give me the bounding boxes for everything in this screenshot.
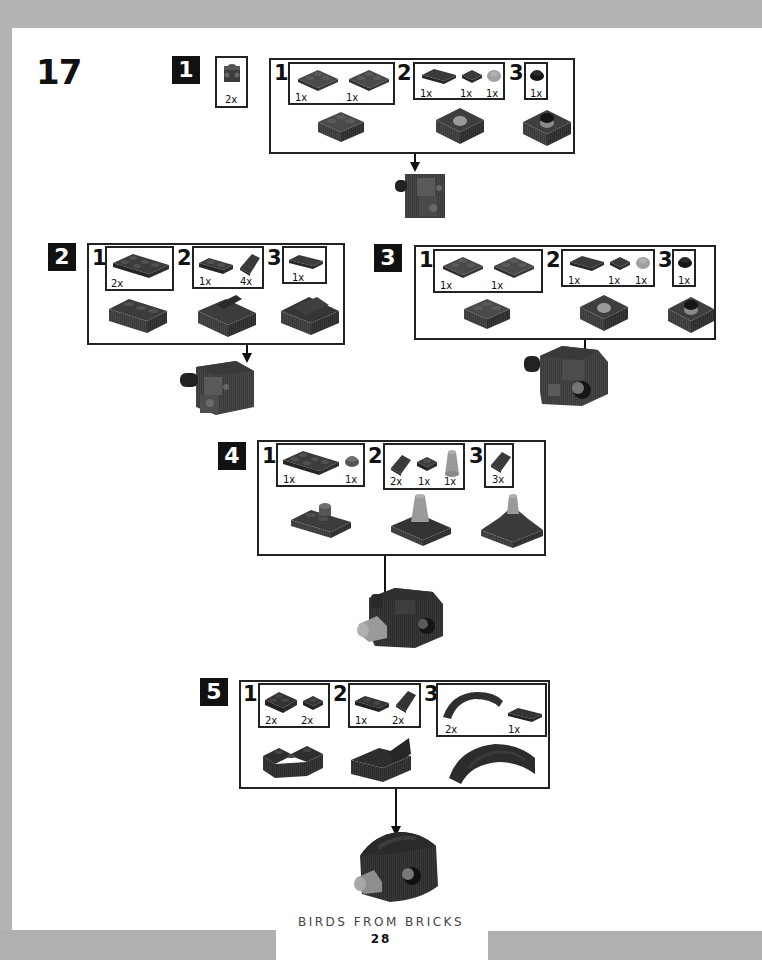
quantity-label: 1x	[345, 474, 357, 485]
substep-3-parts: 2x 1x	[436, 683, 547, 737]
slope-1x1-icon	[388, 452, 414, 476]
substep-number: 2	[368, 446, 383, 467]
step-4-badge: 4	[218, 442, 246, 470]
substep-2-parts: 1x 4x	[192, 246, 264, 289]
tile-1x2-icon	[287, 252, 325, 270]
slope-1x1-icon	[392, 687, 418, 713]
substep-1-parts: 2x 2x	[258, 683, 330, 728]
substep-number: 3	[267, 248, 282, 269]
brick-side-studs-icon	[222, 62, 242, 84]
substep-number: 1	[243, 684, 258, 705]
substep-3-parts: 1x	[672, 249, 696, 287]
substep-number: 3	[469, 446, 484, 467]
quantity-label: 1x	[283, 474, 295, 485]
substep-3-parts: 3x	[484, 443, 514, 488]
substep-1-result-icon	[462, 297, 512, 331]
plate-2x2-icon	[295, 67, 341, 91]
substep-3-parts: 1x	[282, 246, 327, 284]
tile-1x2-icon	[506, 705, 544, 723]
tile-1x1-icon	[608, 255, 632, 271]
step-2-frame: 1 2x 2 1x 4x 3 1x	[87, 243, 345, 345]
substep-1-result-icon	[316, 110, 366, 144]
slope-1x1-icon	[236, 250, 262, 276]
book-title: BIRDS FROM BRICKS	[0, 915, 762, 929]
plate-1x1-icon	[301, 693, 325, 711]
quantity-label: 1x	[444, 476, 456, 487]
arrow-line	[395, 789, 397, 827]
model-number: 17	[36, 52, 81, 92]
quantity-label: 1x	[568, 275, 580, 286]
quantity-label: 1x	[608, 275, 620, 286]
plate-2x2-icon	[491, 254, 537, 278]
quantity-label: 2x	[390, 476, 402, 487]
quantity-label: 2x	[301, 715, 313, 726]
quantity-label: 2x	[265, 715, 277, 726]
substep-2-parts: 1x 1x 1x	[561, 249, 655, 287]
plate-2x2-icon	[346, 67, 392, 91]
quantity-label: 1x	[440, 280, 452, 291]
quantity-label: 2x	[392, 715, 404, 726]
tile-1x2-icon	[568, 254, 606, 272]
step-4-frame: 1 1x 1x 2 2x 1x 1x 3 3x	[257, 440, 546, 556]
step-5-assembly-icon	[350, 828, 442, 908]
substep-number: 1	[419, 250, 434, 271]
round-plate-black-icon	[677, 254, 693, 270]
substep-1-result-icon	[289, 502, 353, 544]
round-plate-light-icon	[635, 255, 651, 271]
substep-3-result-icon	[479, 490, 545, 548]
quantity-label: 1x	[486, 88, 498, 99]
substep-2-parts: 2x 1x 1x	[383, 443, 465, 490]
step-5-badge: 5	[200, 678, 228, 706]
substep-3-result-icon	[666, 293, 716, 335]
substep-2-result-icon	[434, 106, 486, 146]
quantity-label: 2x	[225, 94, 237, 105]
substep-2-result-icon	[349, 734, 415, 784]
step-1-badge: 1	[172, 56, 200, 84]
substep-number: 2	[546, 250, 561, 271]
round-plate-light-icon	[486, 68, 502, 84]
step-3-assembly-icon	[522, 342, 612, 408]
quantity-label: 1x	[508, 724, 520, 735]
cone-light-icon	[443, 446, 461, 478]
step-2-assembly-icon	[176, 357, 258, 417]
quantity-label: 1x	[420, 88, 432, 99]
substep-number: 1	[274, 63, 289, 84]
quantity-label: 1x	[530, 88, 542, 99]
substep-1-result-icon	[107, 295, 169, 335]
slope-1x1-icon	[488, 449, 514, 473]
step-4-assembly-icon	[355, 584, 445, 654]
substep-1-result-icon	[261, 738, 325, 782]
substep-1-parts: 1x 1x	[276, 443, 365, 487]
substep-2-result-icon	[578, 293, 630, 333]
substep-number: 2	[333, 684, 348, 705]
plate-2x3-icon	[281, 448, 341, 476]
substep-number: 1	[262, 446, 277, 467]
plate-2x2-icon	[440, 254, 486, 278]
plate-1x2-icon	[197, 254, 235, 276]
round-plate-black-icon	[529, 67, 545, 83]
substep-3-result-icon	[279, 291, 341, 337]
substep-3-parts: 1x	[524, 62, 548, 100]
tile-1x1-icon	[460, 68, 484, 84]
quantity-label: 1x	[418, 476, 430, 487]
plate-1x2-icon	[353, 692, 391, 714]
quantity-label: 2x	[445, 724, 457, 735]
quantity-label: 1x	[292, 272, 304, 283]
quantity-label: 1x	[199, 276, 211, 287]
quantity-label: 1x	[491, 280, 503, 291]
step-1-assembly-icon	[393, 168, 455, 224]
step-5-frame: 1 2x 2x 2 1x 2x 3 2x 1x	[239, 680, 550, 789]
quantity-label: 1x	[295, 92, 307, 103]
step-2-badge: 2	[48, 243, 76, 271]
step-3-frame: 1 1x 1x 2 1x 1x 1x 3 1x	[414, 245, 716, 340]
corner-plate-icon	[263, 688, 299, 714]
curved-slope-arch-icon	[441, 689, 505, 721]
quantity-label: 1x	[346, 92, 358, 103]
quantity-label: 3x	[492, 474, 504, 485]
substep-number: 3	[658, 250, 673, 271]
page-number: 28	[0, 932, 762, 946]
substep-number: 2	[397, 63, 412, 84]
substep-1-parts: 2x	[105, 246, 174, 291]
quantity-label: 1x	[460, 88, 472, 99]
quantity-label: 2x	[111, 278, 123, 289]
